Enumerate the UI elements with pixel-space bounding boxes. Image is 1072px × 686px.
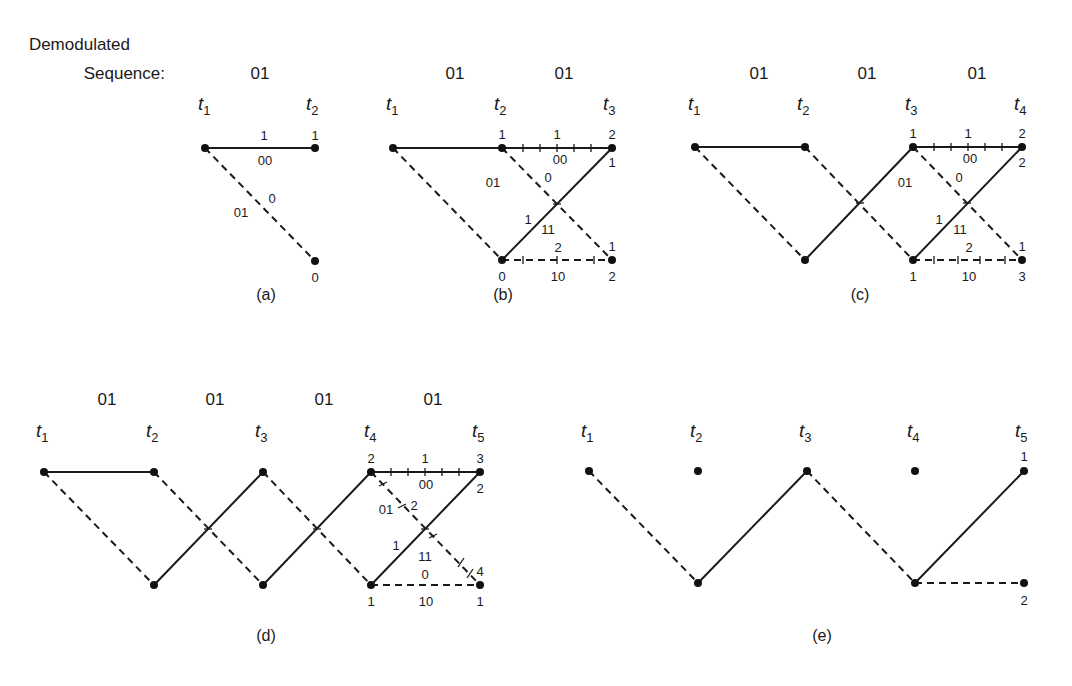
panel-e-time-3: t3 xyxy=(799,420,812,445)
panel-a-node-t2-upper xyxy=(311,144,319,152)
panel-b-time-3: t3 xyxy=(603,93,616,118)
panel-d-seq-3: 01 xyxy=(315,390,334,409)
panel-d-caption: (d) xyxy=(256,627,276,644)
panel-d-t5-upper-bottom: 2 xyxy=(476,481,483,496)
panel-b-t2-lower-metric: 0 xyxy=(498,269,505,284)
panel-d-label-11: 11 xyxy=(418,549,432,564)
panel-d: 01 01 01 01 t1 t2 t3 t4 t5 xyxy=(36,390,485,644)
panel-c-metric-00: 1 xyxy=(964,126,971,141)
panel-d-seq-2: 01 xyxy=(206,390,225,409)
viterbi-trellis-diagram: Demodulated Sequence: 01 t1 t2 1 00 01 0… xyxy=(0,0,1072,686)
panel-d-seq-1: 01 xyxy=(98,390,117,409)
panel-b-time-1: t1 xyxy=(386,93,399,118)
panel-d-node-t1-upper xyxy=(40,468,48,476)
panel-b-node-t2-upper xyxy=(498,144,506,152)
panel-b-metric-11: 1 xyxy=(524,212,531,227)
panel-d-t5-upper-top: 3 xyxy=(476,451,483,466)
panel-b-label-00: 00 xyxy=(553,152,567,167)
panel-c-time-4: t4 xyxy=(1014,93,1027,118)
panel-b-metric-00: 1 xyxy=(553,127,560,142)
panel-c-label-01: 01 xyxy=(898,175,912,190)
panel-c-t4-upper-top: 2 xyxy=(1018,126,1025,141)
panel-b: 01 01 t1 t2 t3 1 0 1 00 01 0 1 11 2 xyxy=(386,64,616,303)
panel-b-node-t3-lower xyxy=(608,256,616,264)
panel-d-metric-10: 0 xyxy=(421,567,428,582)
panel-a-time-1: t1 xyxy=(198,93,211,118)
panel-c-time-2: t2 xyxy=(797,93,810,118)
panel-e-node-t4-lower xyxy=(911,579,919,587)
panel-e-node-t5-lower xyxy=(1020,579,1028,587)
panel-a-node-t2-lower xyxy=(311,257,319,265)
panel-a-seq-1: 01 xyxy=(251,64,270,83)
panel-d-t4-lower-metric: 1 xyxy=(367,594,374,609)
panel-d-t5-lower-top: 4 xyxy=(476,564,483,579)
panel-a-node-t1-upper xyxy=(201,144,209,152)
panel-b-metric-10: 2 xyxy=(554,240,561,255)
panel-e-node-t4-upper xyxy=(911,467,919,475)
panel-c-node-t3-upper xyxy=(909,143,917,151)
panel-c-t3-upper-metric: 1 xyxy=(909,126,916,141)
panel-d-t5-lower-bottom: 1 xyxy=(476,594,483,609)
panel-d-time-2: t2 xyxy=(146,420,159,445)
panel-a-metric-01: 0 xyxy=(268,191,275,206)
panel-c-t4-upper-bottom: 2 xyxy=(1018,155,1025,170)
panel-c-seq-2: 01 xyxy=(858,64,877,83)
panel-d-label-00: 00 xyxy=(419,477,433,492)
panel-d-node-t2-upper xyxy=(150,468,158,476)
panel-d-branch-t1-01 xyxy=(44,472,154,585)
panel-e-node-t3-upper xyxy=(803,467,811,475)
panel-e-time-5: t5 xyxy=(1015,420,1028,445)
panel-b-t2-upper-metric: 1 xyxy=(498,127,505,142)
panel-a-metric-00: 1 xyxy=(260,128,267,143)
panel-b-time-2: t2 xyxy=(494,93,507,118)
panel-e-node-t1-upper xyxy=(585,467,593,475)
panel-c-t3-lower-metric: 1 xyxy=(909,269,916,284)
panel-d-time-5: t5 xyxy=(472,420,485,445)
panel-e-path-4-upper xyxy=(915,471,1024,583)
panel-b-seq-2: 01 xyxy=(555,64,574,83)
panel-e-path-1 xyxy=(589,471,698,583)
panel-e-time-1: t1 xyxy=(581,420,594,445)
panel-e-node-t5-upper xyxy=(1020,467,1028,475)
panel-e-path-2 xyxy=(698,471,807,583)
panel-d-time-4: t4 xyxy=(364,420,377,445)
panel-c-label-00: 00 xyxy=(963,151,977,166)
panel-a-label-01: 01 xyxy=(234,205,248,220)
panel-e-time-2: t2 xyxy=(690,420,703,445)
panel-d-t4-upper-metric: 2 xyxy=(367,451,374,466)
panel-b-t3-upper-bottom: 1 xyxy=(608,155,615,170)
panel-a-time-2: t2 xyxy=(306,93,319,118)
panel-b-t3-lower-top: 1 xyxy=(608,239,615,254)
panel-b-label-10: 10 xyxy=(551,269,565,284)
panel-d-node-t3-lower xyxy=(259,581,267,589)
panel-c-t4-lower-bottom: 3 xyxy=(1018,269,1025,284)
panel-d-time-1: t1 xyxy=(36,420,49,445)
panel-d-label-01: 01 xyxy=(379,502,393,517)
panel-b-label-11: 11 xyxy=(541,222,555,237)
panel-b-node-t3-upper xyxy=(608,144,616,152)
panel-b-node-t1-upper xyxy=(389,144,397,152)
panel-b-t3-upper-top: 2 xyxy=(608,127,615,142)
panel-d-metric-01: 2 xyxy=(410,498,417,513)
panel-c-label-10: 10 xyxy=(962,269,976,284)
panel-d-node-t4-lower xyxy=(367,581,375,589)
panel-e-t5-lower-metric: 2 xyxy=(1020,593,1027,608)
panel-b-metric-01: 0 xyxy=(544,170,551,185)
panel-b-label-01: 01 xyxy=(486,175,500,190)
panel-d-seq-4: 01 xyxy=(424,390,443,409)
header-demodulated: Demodulated xyxy=(29,35,130,54)
panel-c-node-t4-upper xyxy=(1018,143,1026,151)
panel-c-node-t2-lower xyxy=(801,256,809,264)
panel-c-branch-t1-01 xyxy=(695,147,805,260)
panel-e-t5-upper-metric: 1 xyxy=(1020,449,1027,464)
panel-b-caption: (b) xyxy=(493,286,513,303)
panel-e: t1 t2 t3 t4 t5 1 2 (e) xyxy=(581,420,1028,644)
panel-b-node-t2-lower xyxy=(498,256,506,264)
panel-e-node-t2-lower xyxy=(694,579,702,587)
panel-d-metric-00: 1 xyxy=(421,451,428,466)
panel-d-node-t3-upper xyxy=(259,468,267,476)
panel-c-seq-3: 01 xyxy=(968,64,987,83)
panel-b-seq-1: 01 xyxy=(446,64,465,83)
panel-a-end-lower: 0 xyxy=(311,270,318,285)
panel-c-node-t1-upper xyxy=(691,143,699,151)
